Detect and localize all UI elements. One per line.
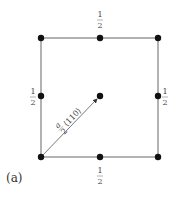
atom-corner-br [155, 154, 161, 160]
svg-text:1: 1 [97, 10, 102, 19]
svg-text:2: 2 [97, 21, 102, 30]
svg-text:2: 2 [162, 98, 167, 107]
atom-center [97, 93, 103, 99]
atom-mid-bottom [97, 154, 103, 160]
svg-text:1: 1 [30, 87, 35, 96]
atom-corner-tr [155, 35, 161, 41]
atom-mid-top [97, 35, 103, 41]
label-top-half: 1 2 [97, 10, 103, 30]
atom-corner-tl [38, 35, 44, 41]
atom-corner-bl [38, 154, 44, 160]
label-left-half: 1 2 [30, 87, 36, 107]
svg-text:1: 1 [97, 166, 102, 175]
atom-mid-left [38, 93, 44, 99]
svg-text:2: 2 [97, 177, 102, 186]
svg-text:2: 2 [30, 98, 35, 107]
burgers-vector-arrow [41, 99, 97, 157]
unit-cell-diagram: 1 2 1 2 1 2 1 2 a 2 ⟨110⟩ (a) [0, 0, 177, 203]
svg-text:1: 1 [162, 87, 167, 96]
vector-label: a 2 ⟨110⟩ [52, 103, 86, 137]
label-right-half: 1 2 [162, 87, 168, 107]
atom-mid-right [155, 93, 161, 99]
figure-caption: (a) [6, 171, 23, 185]
label-bottom-half: 1 2 [97, 166, 103, 186]
